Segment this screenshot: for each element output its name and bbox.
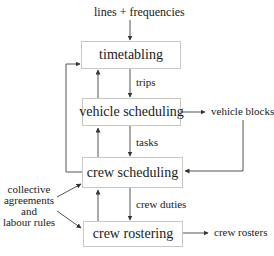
label-tasks: tasks [136,136,158,148]
arrow-rules-to-crew-rostering [57,211,81,228]
label-trips: trips [136,76,156,88]
vehicle-scheduling-box: vehicle scheduling [82,98,181,126]
output-vehicle-blocks: vehicle blocks [211,105,274,117]
crew-rostering-box: crew rostering [83,221,183,247]
side-input-line-4: labour rules [2,217,56,228]
crew-scheduling-box: crew scheduling [82,157,183,188]
output-crew-rosters: crew rosters [214,226,267,238]
side-input-collective-agreements: collective agreements and labour rules [2,184,56,228]
arrow-blocks-to-crew [185,120,243,171]
timetabling-box: timetabling [81,41,181,69]
label-crew-duties: crew duties [136,198,186,210]
arrow-rules-to-crew-scheduling [57,184,81,197]
input-lines-frequencies: lines + frequencies [94,5,185,20]
